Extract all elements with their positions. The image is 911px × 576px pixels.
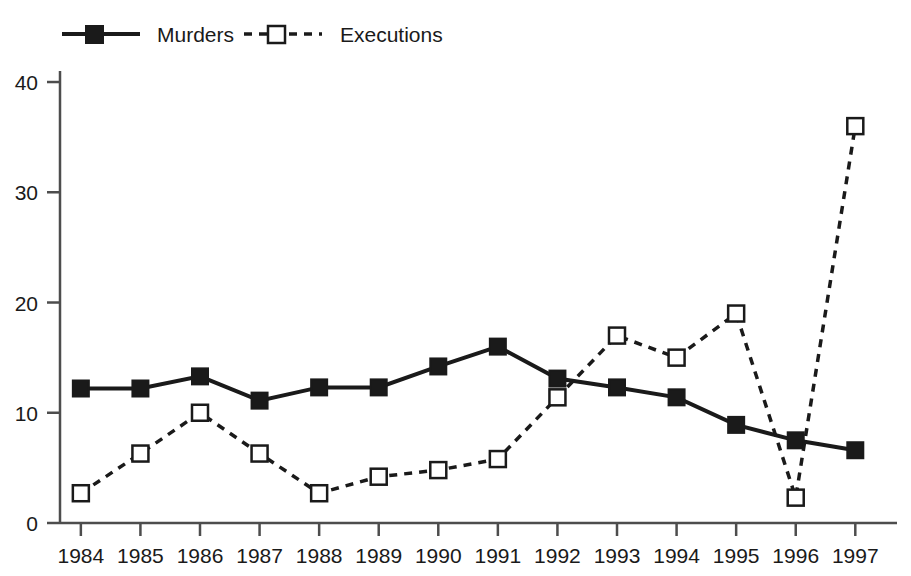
data-point-executions-1985 [132, 446, 148, 462]
data-point-murders-1991 [490, 339, 506, 355]
series-murders [73, 339, 863, 459]
x-axis-tick-label: 1992 [534, 544, 581, 567]
y-axis-tick-label: 0 [26, 512, 38, 535]
data-point-murders-1994 [669, 389, 685, 405]
data-point-murders-1989 [371, 379, 387, 395]
legend-marker-executions-open-square-icon [268, 26, 285, 43]
data-point-executions-1988 [311, 485, 327, 501]
data-point-murders-1995 [728, 417, 744, 433]
y-axis-tick-label: 10 [15, 402, 38, 425]
y-axis-tick-labels: 010203040 [15, 71, 38, 535]
data-point-murders-1988 [311, 379, 327, 395]
legend-marker-murders-filled-square-icon [86, 26, 103, 43]
legend-item-executions: Executions [244, 23, 443, 46]
x-axis-tick-label: 1988 [296, 544, 343, 567]
data-point-executions-1991 [490, 451, 506, 467]
data-point-executions-1986 [192, 405, 208, 421]
data-point-executions-1993 [609, 328, 625, 344]
x-axis-tick-label: 1987 [236, 544, 283, 567]
legend-label-murders: Murders [157, 23, 234, 46]
chart-container: Murders Executions 010203040 19841985198… [0, 0, 911, 576]
x-axis-tick-label: 1993 [594, 544, 641, 567]
data-point-murders-1987 [252, 393, 268, 409]
data-point-executions-1984 [73, 485, 89, 501]
data-point-murders-1985 [132, 381, 148, 397]
y-axis-ticks [47, 82, 60, 523]
data-point-executions-1995 [728, 306, 744, 322]
chart-legend: Murders Executions [62, 23, 443, 46]
data-point-executions-1994 [669, 350, 685, 366]
x-axis-tick-label: 1996 [772, 544, 819, 567]
data-point-executions-1996 [788, 490, 804, 506]
x-axis-ticks [81, 523, 855, 536]
data-point-executions-1997 [847, 118, 863, 134]
data-point-executions-1990 [430, 462, 446, 478]
x-axis-tick-label: 1994 [653, 544, 700, 567]
x-axis-tick-label: 1990 [415, 544, 462, 567]
data-point-murders-1992 [549, 371, 565, 387]
legend-label-executions: Executions [340, 23, 443, 46]
data-point-murders-1997 [847, 442, 863, 458]
legend-item-murders: Murders [62, 23, 234, 46]
x-axis-tick-label: 1997 [832, 544, 879, 567]
data-point-murders-1986 [192, 368, 208, 384]
chart-axes [47, 71, 897, 536]
x-axis-tick-label: 1985 [117, 544, 164, 567]
data-point-murders-1993 [609, 379, 625, 395]
data-point-murders-1996 [788, 432, 804, 448]
x-axis-tick-label: 1986 [177, 544, 224, 567]
x-axis-tick-labels: 1984198519861987198819891990199119921993… [57, 544, 878, 567]
y-axis-tick-label: 30 [15, 181, 38, 204]
y-axis-tick-label: 40 [15, 71, 38, 94]
data-point-executions-1992 [549, 389, 565, 405]
chart-series-layer [73, 118, 863, 506]
data-point-executions-1987 [252, 446, 268, 462]
data-point-executions-1989 [371, 469, 387, 485]
line-chart: Murders Executions 010203040 19841985198… [0, 0, 911, 576]
x-axis-tick-label: 1995 [713, 544, 760, 567]
x-axis-tick-label: 1989 [355, 544, 402, 567]
y-axis-tick-label: 20 [15, 292, 38, 315]
x-axis-tick-label: 1984 [57, 544, 104, 567]
x-axis-tick-label: 1991 [475, 544, 522, 567]
series-executions [73, 118, 863, 506]
data-point-murders-1990 [430, 358, 446, 374]
series-line-murders [81, 347, 855, 451]
data-point-murders-1984 [73, 381, 89, 397]
